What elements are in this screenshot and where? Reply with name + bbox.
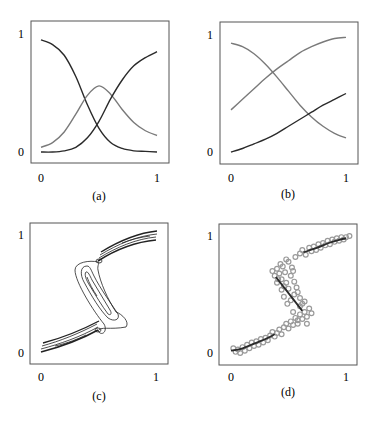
plot-frame [219,224,357,365]
x-tick-0: 0 [228,171,234,185]
scatter-points [231,234,352,356]
contours [41,231,157,352]
data-point [305,314,310,319]
curve-increasing-sigmoid [41,52,157,152]
data-point [283,270,288,275]
caption-d: (d) [281,385,295,399]
y-tick-1: 1 [207,28,213,42]
data-point [298,296,303,301]
data-point [288,273,293,278]
data-point [282,294,287,299]
chart-a: 1 0 0 1 (a) [0,0,187,211]
curve-decreasing [231,43,346,138]
x-tick-1: 1 [343,370,349,384]
y-tick-0: 0 [18,346,24,360]
curves [41,40,157,152]
data-point [292,279,297,284]
x-tick-0: 0 [38,370,44,384]
x-tick-1: 1 [153,370,159,384]
x-tick-0: 0 [228,370,234,384]
fit-segments [231,238,346,350]
y-tick-0: 0 [207,145,213,159]
data-point [286,326,291,331]
curve-lower-increasing [231,94,346,153]
data-point [279,332,284,337]
caption-b: (b) [281,187,295,201]
data-point [285,301,290,306]
panel-a: 1 0 0 1 (a) [0,0,187,211]
data-point [291,310,296,315]
y-tick-0: 0 [18,145,24,159]
chart-d: 1 0 0 1 (d) [187,211,374,422]
x-tick-1: 1 [154,171,160,185]
y-tick-1: 1 [18,228,24,242]
curve-upper-increasing [231,37,346,110]
x-tick-1: 1 [343,171,349,185]
data-point [309,311,314,316]
chart-c: 1 0 0 1 (c) [0,211,187,422]
y-tick-0: 0 [207,346,213,360]
plot-frame [31,21,169,163]
curve-decreasing-sigmoid [41,40,157,152]
caption-c: (c) [92,389,105,403]
data-point [305,321,310,326]
plot-frame [30,223,168,364]
panel-d: 1 0 0 1 (d) [187,211,374,422]
chart-b: 1 0 0 1 (b) [187,0,374,211]
panel-b: 1 0 0 1 (b) [187,0,374,211]
data-point [293,255,298,260]
plot-frame [220,22,358,164]
data-point [307,306,312,311]
caption-a: (a) [92,189,105,203]
curves [231,37,346,152]
y-tick-1: 1 [207,229,213,243]
curve-bump [41,86,157,147]
x-tick-0: 0 [38,171,44,185]
panel-c: 1 0 0 1 (c) [0,211,187,422]
data-point [270,269,275,274]
data-point [294,285,299,290]
y-tick-1: 1 [18,27,24,41]
